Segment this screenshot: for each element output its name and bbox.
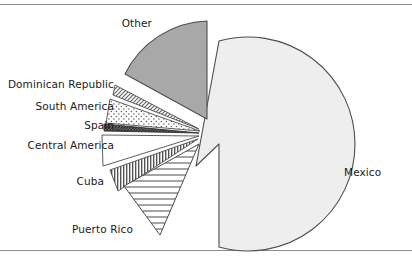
pie-label-central-america: Central America bbox=[28, 140, 114, 151]
pie-label-dominican-republic: Dominican Republic bbox=[8, 79, 114, 90]
pie-label-puerto-rico: Puerto Rico bbox=[72, 224, 133, 235]
pie-label-cuba: Cuba bbox=[77, 176, 105, 187]
pie-slices bbox=[102, 21, 355, 251]
pie-label-spain: Spain bbox=[84, 120, 114, 131]
pie-chart-figure: Other Dominican Republic South America S… bbox=[0, 0, 412, 256]
pie-chart-canvas bbox=[0, 0, 412, 256]
pie-slice-mexico[interactable] bbox=[196, 37, 355, 251]
pie-label-south-america: South America bbox=[36, 101, 114, 112]
pie-label-mexico: Mexico bbox=[344, 167, 381, 178]
pie-label-other: Other bbox=[122, 18, 152, 29]
